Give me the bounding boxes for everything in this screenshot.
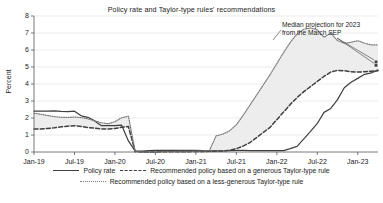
svg-text:0: 0 — [25, 148, 29, 155]
legend-item-less-generous-rule[interactable]: Recommended policy based on a less-gener… — [80, 176, 304, 187]
legend-row-2: Recommended policy based on a less-gener… — [0, 176, 383, 187]
svg-text:4: 4 — [25, 80, 29, 87]
svg-text:3: 3 — [25, 97, 29, 104]
svg-text:Jan-23: Jan-23 — [347, 158, 369, 165]
svg-text:Jan-20: Jan-20 — [104, 158, 126, 165]
svg-text:from the March SEP: from the March SEP — [282, 29, 342, 36]
svg-text:Jul-21: Jul-21 — [227, 158, 246, 165]
legend-item-policy-rate[interactable]: Policy rate — [53, 165, 115, 176]
svg-text:8: 8 — [25, 12, 29, 19]
svg-text:6: 6 — [25, 46, 29, 53]
svg-text:Jul-19: Jul-19 — [65, 158, 84, 165]
svg-text:Jan-19: Jan-19 — [23, 158, 45, 165]
legend-item-generous-rule[interactable]: Recommended policy based on a generous T… — [120, 165, 329, 176]
svg-text:Jul-20: Jul-20 — [146, 158, 165, 165]
svg-text:7: 7 — [25, 29, 29, 36]
legend-label-generous-rule: Recommended policy based on a generous T… — [150, 165, 329, 176]
svg-text:2: 2 — [25, 114, 29, 121]
svg-text:Jan-22: Jan-22 — [266, 158, 288, 165]
x-axis-ticks: Jan-19Jul-19Jan-20Jul-20Jan-21Jul-21Jan-… — [23, 152, 368, 165]
shaded-band — [34, 28, 378, 152]
chart-figure: Policy rate and Taylor-type rules' recom… — [0, 0, 383, 203]
legend-swatch-dashed-icon — [120, 170, 146, 172]
legend-swatch-solid-icon — [53, 170, 79, 172]
legend-label-less-generous-rule: Recommended policy based on a less-gener… — [110, 176, 304, 187]
svg-text:5: 5 — [25, 63, 29, 70]
svg-text:1: 1 — [25, 131, 29, 138]
legend-row-1: Policy rate Recommended policy based on … — [0, 165, 383, 176]
chart-legend: Policy rate Recommended policy based on … — [0, 165, 383, 187]
svg-text:Jan-21: Jan-21 — [185, 158, 207, 165]
legend-swatch-dotted-icon — [80, 181, 106, 183]
y-axis-ticks: 012345678 — [25, 12, 34, 155]
svg-text:Jul-22: Jul-22 — [308, 158, 327, 165]
svg-text:Median projection for 2023: Median projection for 2023 — [282, 21, 360, 29]
legend-label-policy-rate: Policy rate — [83, 165, 115, 176]
